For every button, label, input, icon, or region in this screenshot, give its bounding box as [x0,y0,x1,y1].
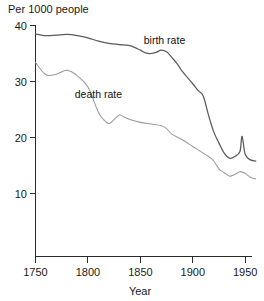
y-axis: 40 30 20 10 [15,20,36,257]
y-tick-label-20: 20 [15,132,27,144]
series-line-birth-rate [36,34,256,161]
series-label-birth-rate: birth rate [144,34,186,46]
y-tick-label-10: 10 [15,188,27,200]
line-chart: Per 1000 people 40 30 20 10 1750 1800 18… [0,0,264,301]
x-tick-label-1750: 1750 [23,266,47,278]
series-line-death-rate [36,62,256,178]
x-tick-label-1950: 1950 [233,266,257,278]
y-tick-label-30: 30 [15,76,27,88]
x-tick-label-1850: 1850 [128,266,152,278]
x-tick-label-1900: 1900 [181,266,205,278]
x-axis: 1750 1800 1850 1900 1950 Year [23,257,257,298]
x-axis-title: Year [129,285,152,297]
y-tick-label-40: 40 [15,20,27,32]
chart-plot-area: 40 30 20 10 1750 1800 1850 1900 1950 Yea… [0,0,264,301]
x-tick-label-1800: 1800 [76,266,100,278]
series-label-death-rate: death rate [75,88,122,100]
